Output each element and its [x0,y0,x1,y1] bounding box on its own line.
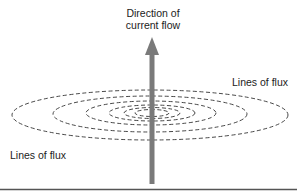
flux-label-right: Lines of flux [232,76,288,88]
arrow-up-icon [145,37,159,55]
flux-label-left: Lines of flux [10,149,66,161]
current-label-line1: Direction of [120,7,186,19]
conductor-arrow [145,37,159,184]
current-direction-label: Direction of current flow [120,7,186,31]
conductor-shaft [150,50,155,184]
current-label-line2: current flow [120,19,186,31]
